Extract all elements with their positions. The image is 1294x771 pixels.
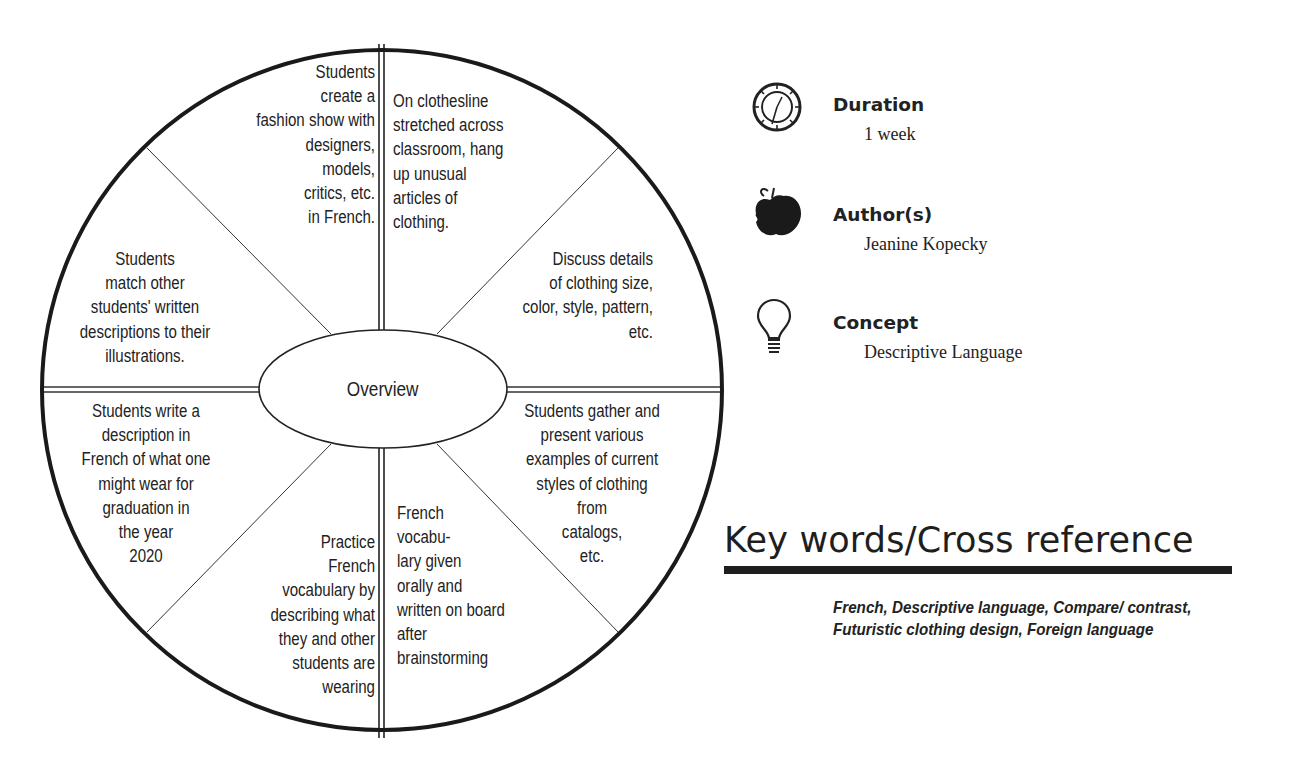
authors-label: Author(s): [833, 204, 932, 225]
segment-discuss-details: Discuss details of clothing size, color,…: [504, 247, 653, 344]
segment-match-descriptions: Students match other students' written d…: [58, 247, 232, 368]
duration-label: Duration: [833, 94, 924, 115]
duration-value: 1 week: [864, 124, 915, 145]
segment-fashion-show: Students create a fashion show with desi…: [229, 60, 375, 229]
keywords-heading: Key words/Cross reference: [724, 520, 1194, 560]
segment-graduation-description: Students write a description in French o…: [62, 399, 231, 568]
overview-text: Overview: [347, 378, 419, 401]
segment-vocabulary-board: French vocabu- lary given orally and wri…: [397, 501, 543, 670]
lightbulb-icon: [750, 298, 804, 358]
keywords-text: French, Descriptive language, Compare/ c…: [833, 596, 1201, 640]
segment-clothesline: On clothesline stretched across classroo…: [393, 89, 539, 234]
concept-value: Descriptive Language: [864, 342, 1022, 363]
clock-icon: [750, 80, 804, 134]
keywords-underline-rule: [724, 566, 1232, 574]
segment-practice-vocabulary: Practice French vocabulary by describing…: [229, 530, 375, 699]
overview-label: Overview: [259, 330, 507, 448]
authors-value: Jeanine Kopecky: [864, 234, 987, 255]
concept-label: Concept: [833, 312, 918, 333]
apple-icon: [750, 182, 804, 236]
